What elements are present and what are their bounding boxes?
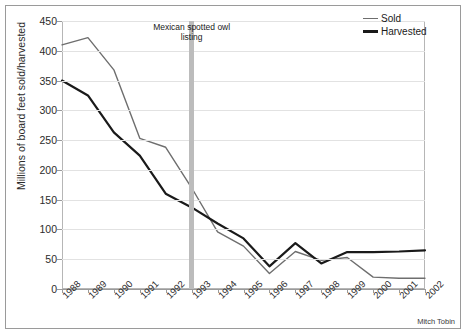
y-axis-tick-mark	[57, 140, 62, 141]
y-axis-tick-label: 400	[39, 45, 57, 57]
y-axis-labels: 050100150200250300350400450	[0, 0, 57, 335]
y-axis-tick-label: 150	[39, 194, 57, 206]
gridline	[62, 200, 425, 201]
y-axis-tick-label: 50	[45, 253, 57, 265]
y-axis-tick-label: 450	[39, 15, 57, 27]
gridline	[62, 170, 425, 171]
event-annotation-line2: listing	[132, 32, 252, 42]
credit-label: Mitch Tobin	[417, 317, 455, 326]
y-axis-tick-mark	[57, 200, 62, 201]
legend-item-sold: Sold	[363, 12, 459, 25]
y-axis-tick-mark	[57, 81, 62, 82]
event-annotation-line1: Mexican spotted owl	[132, 22, 252, 32]
event-annotation-label: Mexican spotted owl listing	[132, 22, 252, 43]
gridline	[62, 81, 425, 82]
y-axis-tick-mark	[57, 21, 62, 22]
y-axis-tick-mark	[57, 259, 62, 260]
gridline	[62, 51, 425, 52]
y-axis-tick-label: 350	[39, 75, 57, 87]
gridline	[62, 140, 425, 141]
series-layer	[62, 21, 425, 289]
chart-legend: SoldHarvested	[363, 12, 459, 38]
series-line-sold	[62, 38, 425, 279]
y-axis-tick-label: 200	[39, 164, 57, 176]
gridline	[62, 259, 425, 260]
y-axis-tick-label: 100	[39, 223, 57, 235]
y-axis-tick-mark	[57, 229, 62, 230]
plot-area	[62, 21, 425, 289]
legend-swatch-sold-icon	[363, 18, 378, 19]
legend-item-harvested: Harvested	[363, 25, 459, 38]
y-axis-title: Millions of board feet sold/harvested	[15, 0, 27, 231]
legend-swatch-harvested-icon	[363, 30, 378, 32]
chart-figure: 050100150200250300350400450 Millions of …	[0, 0, 467, 335]
y-axis-tick-mark	[57, 51, 62, 52]
legend-label: Sold	[381, 13, 401, 24]
gridline	[62, 110, 425, 111]
y-axis-tick-label: 250	[39, 134, 57, 146]
legend-label: Harvested	[381, 26, 427, 37]
gridline	[62, 229, 425, 230]
y-axis-tick-mark	[57, 110, 62, 111]
y-axis-tick-label: 300	[39, 104, 57, 116]
y-axis-tick-mark	[57, 170, 62, 171]
series-line-harvested	[62, 81, 425, 267]
event-band-mexican-spotted-owl-listing	[189, 21, 194, 289]
